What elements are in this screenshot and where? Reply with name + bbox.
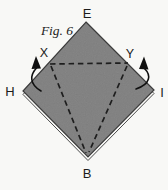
fold-line-x-to-y — [50, 63, 128, 64]
fold-point-label-y: Y — [126, 47, 135, 61]
fold-point-label-x: X — [40, 46, 49, 60]
vertex-label-b: B — [83, 166, 92, 181]
vertex-label-e: E — [83, 6, 92, 21]
origami-diagram: Fig. 6 E H I B X Y — [0, 0, 168, 190]
vertex-label-i: I — [160, 85, 164, 100]
figure-label: Fig. 6 — [40, 23, 73, 38]
vertex-label-h: H — [5, 84, 14, 99]
